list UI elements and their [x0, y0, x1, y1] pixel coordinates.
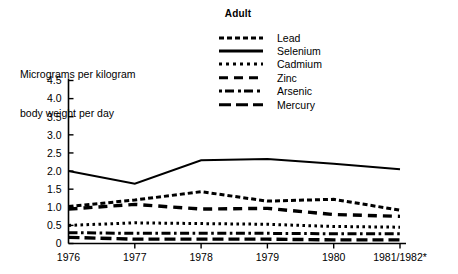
- x-axis-tick-labels: 197619771978197919801981/1982*: [57, 251, 427, 263]
- x-axis-tick-label: 1981/1982*: [373, 251, 427, 263]
- y-axis-tick-label: 4.5: [47, 74, 62, 86]
- x-axis-tick-label: 1976: [57, 251, 81, 263]
- series-line-cadmium: [69, 223, 401, 227]
- y-axis-tick-label: 3.0: [47, 129, 62, 141]
- plot-area: 4.54.03.53.02.52.01.51.00.50 19761977197…: [0, 0, 458, 274]
- y-axis-tick-label: 1.5: [47, 183, 62, 195]
- x-axis-tick-label: 1979: [256, 251, 280, 263]
- y-axis-tick-label: 1.0: [47, 201, 62, 213]
- chart-figure: Adult Micrograms per kilogram body weigh…: [0, 0, 458, 274]
- x-axis-tick-label: 1978: [189, 251, 213, 263]
- x-axis-tick-label: 1980: [322, 251, 346, 263]
- series-lines: [69, 159, 401, 240]
- series-line-arsenic: [69, 233, 401, 234]
- y-axis-tick-label: 2.0: [47, 165, 62, 177]
- y-axis-tick-labels: 4.54.03.53.02.52.01.51.00.50: [47, 74, 62, 249]
- series-line-mercury: [69, 237, 401, 240]
- y-axis-tick-label: 0.5: [47, 219, 62, 231]
- y-axis-tick-label: 3.5: [47, 111, 62, 123]
- y-axis-tick-label: 0: [56, 237, 62, 249]
- series-line-zinc: [69, 204, 401, 216]
- series-line-selenium: [69, 159, 401, 184]
- y-axis-tick-label: 4.0: [47, 92, 62, 104]
- x-axis-tick-label: 1977: [123, 251, 147, 263]
- y-axis-tick-label: 2.5: [47, 147, 62, 159]
